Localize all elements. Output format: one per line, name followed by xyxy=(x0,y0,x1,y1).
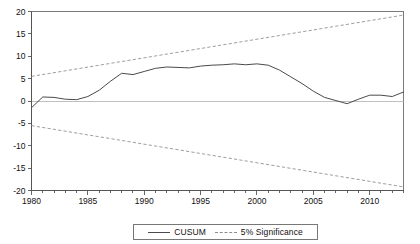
y-axis-tick-label: 0 xyxy=(21,96,26,106)
y-axis-tick-label: 10 xyxy=(16,51,26,61)
y-axis-tick-label: 20 xyxy=(16,7,26,17)
legend-label-cusum: CUSUM xyxy=(174,227,206,237)
chart-legend: CUSUM 5% Significance xyxy=(133,224,318,240)
chart-plot-area: 20151050-5-10-15-20198019851990199520002… xyxy=(0,0,420,244)
legend-entry-significance: 5% Significance xyxy=(215,227,303,237)
legend-entry-cusum: CUSUM xyxy=(148,227,206,237)
y-axis-tick-label: -15 xyxy=(13,163,26,173)
legend-swatch-solid-line xyxy=(148,232,170,233)
x-axis-tick-label: 1990 xyxy=(135,196,154,206)
x-axis-tick-label: 2000 xyxy=(247,196,266,206)
x-axis-tick-label: 2005 xyxy=(304,196,323,206)
y-axis-tick-label: 15 xyxy=(16,29,26,39)
significance-band-line xyxy=(32,126,404,187)
x-axis-tick-label: 1980 xyxy=(22,196,41,206)
x-axis-tick-label: 1995 xyxy=(191,196,210,206)
x-axis-tick-label: 2010 xyxy=(360,196,379,206)
x-axis-tick-label: 1985 xyxy=(78,196,97,206)
legend-swatch-dashed-line xyxy=(215,232,237,233)
y-axis-tick-label: 5 xyxy=(21,74,26,84)
y-axis-tick-label: -5 xyxy=(18,118,26,128)
legend-label-significance: 5% Significance xyxy=(241,227,303,237)
cusum-chart: 20151050-5-10-15-20198019851990199520002… xyxy=(0,0,420,244)
significance-band-line xyxy=(32,15,404,76)
y-axis-tick-label: -10 xyxy=(13,141,26,151)
y-axis-tick-label: -20 xyxy=(13,186,26,196)
